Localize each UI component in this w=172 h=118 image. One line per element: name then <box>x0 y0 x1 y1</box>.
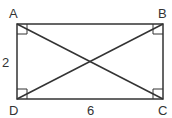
side-label-bottom: 6 <box>87 103 94 118</box>
vertex-label-b: B <box>158 6 167 21</box>
vertex-label-c: C <box>158 103 167 118</box>
vertex-label-a: A <box>9 6 18 21</box>
side-label-left: 2 <box>2 55 9 70</box>
rectangle-diagram: A B C D 2 6 <box>0 0 172 118</box>
vertex-label-d: D <box>9 103 18 118</box>
